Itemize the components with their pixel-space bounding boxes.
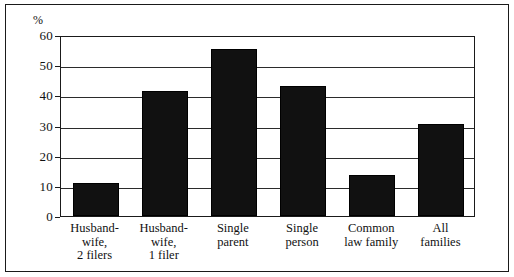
x-axis-category-label: Husband-wife,1 filer bbox=[129, 222, 198, 263]
bar bbox=[418, 124, 464, 216]
bars-group bbox=[61, 37, 474, 216]
x-axis-label-line: parent bbox=[198, 236, 267, 250]
y-axis-tick-label: 50 bbox=[7, 59, 53, 72]
x-axis-category-label: Husband-wife,2 filers bbox=[60, 222, 129, 263]
x-axis-category-label: Commonlaw family bbox=[337, 222, 406, 249]
x-axis-label-line: 2 filers bbox=[60, 249, 129, 263]
x-axis-label-line: Single bbox=[198, 222, 267, 236]
x-axis-label-line: Single bbox=[268, 222, 337, 236]
y-axis-title: % bbox=[33, 13, 43, 28]
x-axis-label-line: 1 filer bbox=[129, 249, 198, 263]
y-axis-tick-label: 30 bbox=[7, 120, 53, 133]
x-axis-label-line: person bbox=[268, 236, 337, 250]
plot-area bbox=[60, 36, 475, 217]
x-axis-label-line: Husband- bbox=[129, 222, 198, 236]
bar bbox=[142, 91, 188, 216]
bar bbox=[73, 183, 119, 216]
x-axis-category-label: Singleparent bbox=[198, 222, 267, 249]
y-axis-tick-mark bbox=[55, 217, 60, 218]
y-axis-tick-label: 40 bbox=[7, 89, 53, 102]
x-axis-category-label: Allfamilies bbox=[406, 222, 475, 249]
bar bbox=[349, 175, 395, 216]
x-axis-label-line: All bbox=[406, 222, 475, 236]
x-axis-category-label: Singleperson bbox=[268, 222, 337, 249]
bar-chart-figure: % 0102030405060 Husband-wife,2 filersHus… bbox=[0, 0, 514, 277]
x-axis-label-line: Husband- bbox=[60, 222, 129, 236]
x-axis-label-line: law family bbox=[337, 236, 406, 250]
x-axis-label-line: Common bbox=[337, 222, 406, 236]
x-axis-label-line: wife, bbox=[60, 236, 129, 250]
x-axis-label-line: wife, bbox=[129, 236, 198, 250]
bar bbox=[280, 86, 326, 216]
y-axis-tick-label: 20 bbox=[7, 150, 53, 163]
y-axis-tick-label: 60 bbox=[7, 29, 53, 42]
bar bbox=[211, 49, 257, 216]
y-axis-tick-label: 0 bbox=[7, 210, 53, 223]
y-axis-tick-label: 10 bbox=[7, 180, 53, 193]
x-axis-label-line: families bbox=[406, 236, 475, 250]
